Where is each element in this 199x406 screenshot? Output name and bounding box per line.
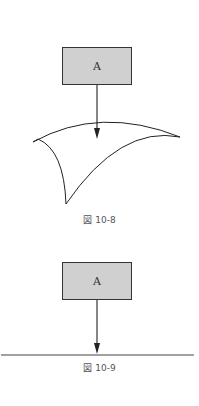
- box-label: A: [93, 275, 101, 288]
- box-a-fig1: A: [62, 47, 132, 85]
- box-label: A: [93, 60, 101, 73]
- arrow-1: [94, 84, 100, 139]
- arrow-2: [94, 299, 100, 354]
- box-a-fig2: A: [62, 262, 132, 300]
- curved-surface: [33, 122, 180, 204]
- caption-fig-10-9: 図 10-9: [0, 361, 199, 374]
- caption-fig-10-8: 図 10-8: [0, 213, 199, 226]
